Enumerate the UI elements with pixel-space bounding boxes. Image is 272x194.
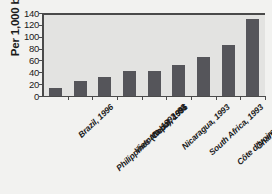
bar[interactable] [49,88,62,96]
y-tick-label: 80 [14,44,39,53]
y-axis-tick-labels: 020406080100120140 [14,9,39,101]
bars-layer [43,13,265,96]
bar[interactable] [197,57,210,96]
bar[interactable] [74,81,87,96]
bar-chart-figure: Per 1,000 births 020406080100120140 Braz… [0,0,272,194]
y-tick-label: 60 [14,56,39,65]
bar[interactable] [123,71,136,96]
y-tick-label: 140 [14,9,39,18]
bar[interactable] [148,71,161,96]
x-axis-category-labels: Brazil, 1996Philippines (Cebu), 1991Viet… [0,96,272,194]
bar[interactable] [172,65,185,96]
y-tick-label: 120 [14,20,39,29]
x-category-label: Brazil, 1996 [76,102,115,140]
bar[interactable] [98,77,111,96]
y-tick-label: 100 [14,32,39,41]
bar[interactable] [222,45,235,96]
x-category-label: Nepal, 1996 [150,102,189,140]
y-tick-label: 40 [14,68,39,77]
bar[interactable] [246,19,259,96]
y-tick-label: 20 [14,80,39,89]
